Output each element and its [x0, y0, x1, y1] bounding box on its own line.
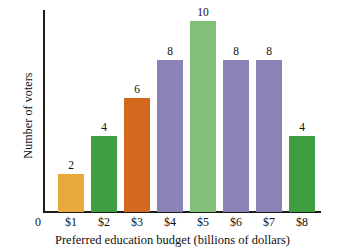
x-tick-label: $1 — [58, 215, 84, 230]
bar[interactable] — [190, 21, 216, 212]
plot-area: 246810884 — [43, 10, 321, 212]
bar[interactable] — [289, 136, 315, 212]
bar-group[interactable]: 6 — [124, 10, 150, 212]
x-tick-label: $6 — [223, 215, 249, 230]
bar-value-label: 8 — [223, 45, 249, 57]
bar-value-label: 6 — [124, 83, 150, 95]
x-tick-label: $7 — [256, 215, 282, 230]
bar-group[interactable]: 8 — [223, 10, 249, 212]
x-tick-label: $3 — [124, 215, 150, 230]
bar-group[interactable]: 4 — [91, 10, 117, 212]
x-axis-title: Preferred education budget (billions of … — [0, 233, 345, 248]
bar[interactable] — [157, 60, 183, 212]
bar[interactable] — [58, 174, 84, 212]
bar[interactable] — [223, 60, 249, 212]
bar-value-label: 4 — [289, 121, 315, 133]
bar[interactable] — [124, 98, 150, 212]
bar-group[interactable]: 8 — [157, 10, 183, 212]
bar-value-label: 8 — [157, 45, 183, 57]
x-tick-label: $8 — [289, 215, 315, 230]
x-tick-label: $4 — [157, 215, 183, 230]
bar-value-label: 2 — [58, 159, 84, 171]
x-tick-label: $5 — [190, 215, 216, 230]
bar-chart: Number of voters 246810884 0 $1$2$3$4$5$… — [0, 0, 345, 252]
bar[interactable] — [256, 60, 282, 212]
bar-group[interactable]: 2 — [58, 10, 84, 212]
bar-value-label: 10 — [190, 6, 216, 18]
bar-value-label: 8 — [256, 45, 282, 57]
bar-group[interactable]: 4 — [289, 10, 315, 212]
bar-group[interactable]: 10 — [190, 10, 216, 212]
x-axis-tick-labels: $1$2$3$4$5$6$7$8 — [43, 215, 321, 233]
bar[interactable] — [91, 136, 117, 212]
bar-value-label: 4 — [91, 121, 117, 133]
y-axis-title: Number of voters — [21, 36, 36, 196]
x-tick-label: $2 — [91, 215, 117, 230]
bar-group[interactable]: 8 — [256, 10, 282, 212]
